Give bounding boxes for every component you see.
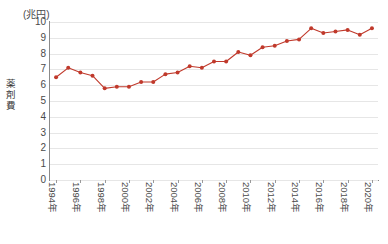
x-axis-tick-label: 2004年: [168, 182, 182, 213]
y-axis-tick-label: 5: [6, 95, 50, 106]
gridline: [50, 180, 378, 181]
y-axis-tick-label: 2: [6, 142, 50, 153]
y-axis-tick-label: 1: [6, 158, 50, 169]
x-axis-tick-label: 1998年: [95, 182, 109, 213]
x-axis-tick-label: 2014年: [289, 182, 303, 213]
y-axis-tick-label: 9: [6, 32, 50, 43]
x-axis-tick-label: 2016年: [313, 182, 327, 213]
y-axis-ticks: 012345678910: [0, 22, 50, 180]
y-axis-tick-label: 7: [6, 63, 50, 74]
x-axis-tick-label: 2018年: [338, 182, 352, 213]
bottom-edge-artifact: [6, 234, 136, 240]
x-axis-tick-label: 1996年: [70, 182, 84, 213]
y-axis-tick-label: 10: [6, 16, 50, 27]
x-axis-tick-label: 2002年: [143, 182, 157, 213]
gridline: [50, 54, 378, 55]
x-axis-tick-label: 2006年: [192, 182, 206, 213]
gridline: [50, 164, 378, 165]
gridline: [50, 85, 378, 86]
x-axis-tick-label: 2010年: [240, 182, 254, 213]
y-axis-tick-label: 6: [6, 79, 50, 90]
gridline: [50, 148, 378, 149]
gridline: [50, 117, 378, 118]
gridline: [50, 69, 378, 70]
x-axis-tick-label: 2012年: [265, 182, 279, 213]
x-axis-tick-label: 2000年: [119, 182, 133, 213]
y-axis-tick-label: 3: [6, 127, 50, 138]
gridline: [50, 133, 378, 134]
plot-area: [50, 22, 378, 180]
x-axis-tick-label: 1994年: [46, 182, 60, 213]
x-axis-tick-label: 2020年: [362, 182, 376, 213]
x-axis-ticks: 1994年1996年1998年2000年2002年2004年2006年2008年…: [0, 182, 388, 242]
chart-container: (兆円) 薬剤費 012345678910 1994年1996年1998年200…: [0, 0, 388, 244]
gridline: [50, 38, 378, 39]
y-axis-tick-label: 4: [6, 111, 50, 122]
y-axis-tick-label: 8: [6, 48, 50, 59]
x-axis-tick-label: 2008年: [216, 182, 230, 213]
gridline: [50, 101, 378, 102]
gridline: [50, 22, 378, 23]
